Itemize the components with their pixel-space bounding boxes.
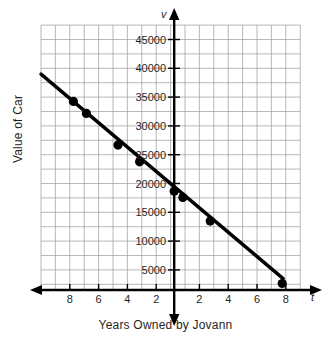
- y-axis-title: Value of Car: [11, 79, 25, 179]
- data-point: [178, 193, 187, 202]
- y-axis-symbol: v: [161, 8, 167, 20]
- data-point: [278, 279, 287, 288]
- y-axis: [168, 8, 180, 326]
- xtick-label-neg8: 8: [67, 293, 73, 305]
- ytick-label-45000: 45000: [104, 34, 166, 46]
- ytick-label-35000: 35000: [104, 91, 166, 103]
- xtick-label-neg4: 4: [124, 293, 130, 305]
- data-point: [170, 187, 179, 196]
- xtick-label-neg6: 6: [96, 293, 102, 305]
- xtick-label-2: 2: [196, 293, 202, 305]
- data-point: [69, 97, 78, 106]
- x-axis-title: Years Owned by Jovann: [0, 318, 331, 332]
- ytick-label-5000: 5000: [104, 264, 166, 276]
- ytick-label-15000: 15000: [104, 206, 166, 218]
- ytick-label-10000: 10000: [104, 235, 166, 247]
- ytick-label-30000: 30000: [104, 120, 166, 132]
- coordinate-plane: [0, 0, 331, 341]
- x-axis-symbol: t: [311, 291, 314, 303]
- ytick-label-25000: 25000: [104, 149, 166, 161]
- xtick-label-6: 6: [254, 293, 260, 305]
- data-point: [206, 217, 215, 226]
- xtick-label-neg2: 2: [153, 293, 159, 305]
- ytick-label-20000: 20000: [104, 178, 166, 190]
- data-point: [82, 109, 91, 118]
- xtick-label-4: 4: [225, 293, 231, 305]
- xtick-label-8: 8: [283, 293, 289, 305]
- chart-figure: 45000 40000 35000 30000 25000 20000 1500…: [0, 0, 331, 341]
- trend-line: [41, 74, 283, 279]
- ytick-label-40000: 40000: [104, 62, 166, 74]
- grid-lines: [41, 25, 300, 290]
